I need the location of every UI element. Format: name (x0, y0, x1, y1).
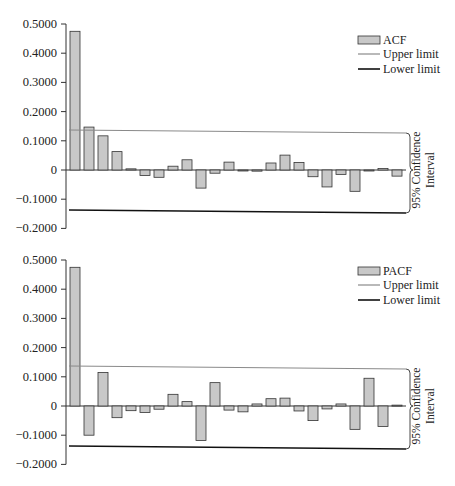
bar-lag-16 (280, 155, 290, 170)
bar-lag-2 (84, 127, 94, 170)
bar-lag-17 (294, 406, 304, 411)
legend-bars-label: PACF (383, 264, 412, 278)
y-tick-label: −0.1000 (16, 428, 57, 442)
bar-lag-12 (224, 162, 234, 170)
y-tick-label: 0.5000 (23, 17, 57, 31)
y-tick-label: 0 (51, 163, 57, 177)
legend-bar-swatch (358, 36, 380, 44)
bar-lag-14 (252, 170, 262, 171)
bar-lag-20 (336, 404, 346, 406)
bar-lag-11 (210, 170, 220, 173)
bar-lag-17 (294, 162, 304, 170)
bar-lag-4 (112, 152, 122, 170)
ci-label-line1: 95% Confidence (410, 368, 422, 445)
bar-lag-21 (350, 406, 360, 429)
lower-limit-line (69, 446, 406, 449)
bar-lag-16 (280, 398, 290, 406)
legend-lower-label: Lower limit (383, 62, 441, 76)
bar-lag-22 (364, 170, 374, 171)
y-tick-label: 0.3000 (23, 75, 57, 89)
bar-lag-24 (392, 170, 402, 176)
bar-lag-7 (154, 170, 164, 177)
bar-lag-13 (238, 170, 248, 171)
legend-lower-label: Lower limit (383, 293, 441, 307)
y-tick-label: 0.5000 (23, 253, 57, 267)
ci-label-line1: 95% Confidence (410, 132, 422, 209)
ci-label: 95% ConfidenceInterval (410, 132, 436, 209)
ci-label-line2: Interval (424, 152, 436, 188)
bar-lag-1 (70, 267, 80, 406)
bar-lag-5 (126, 406, 136, 411)
y-tick-label: 0.4000 (23, 282, 57, 296)
legend-upper-label: Upper limit (383, 278, 439, 292)
ci-label-line2: Interval (424, 388, 436, 424)
y-tick-label: 0.2000 (23, 105, 57, 119)
legend: ACFUpper limitLower limit (358, 33, 441, 76)
lower-limit-line (69, 210, 406, 213)
y-tick-label: 0.2000 (23, 341, 57, 355)
pacf-plot: 0.50000.40000.30000.20000.10000−0.1000−0… (0, 236, 455, 486)
bar-lag-8 (168, 166, 178, 170)
y-tick-label: 0.4000 (23, 46, 57, 60)
bar-lag-9 (182, 402, 192, 406)
bar-lag-22 (364, 378, 374, 406)
bar-lag-4 (112, 406, 122, 418)
bar-lag-10 (196, 170, 206, 188)
y-tick-label: 0.1000 (23, 134, 57, 148)
bar-lag-6 (140, 170, 150, 176)
bar-lag-9 (182, 160, 192, 170)
y-tick-label: 0.3000 (23, 311, 57, 325)
bar-lag-14 (252, 404, 262, 406)
acf-plot: 0.50000.40000.30000.20000.10000−0.1000−0… (0, 0, 455, 243)
bar-lag-6 (140, 406, 150, 412)
bar-lag-19 (322, 406, 332, 409)
bar-lag-18 (308, 170, 318, 177)
bar-lag-2 (84, 406, 94, 435)
ci-label: 95% ConfidenceInterval (410, 368, 436, 445)
acf-chart: 0.50000.40000.30000.20000.10000−0.1000−0… (0, 0, 455, 243)
y-tick-label: 0.1000 (23, 370, 57, 384)
legend-upper-label: Upper limit (383, 47, 439, 61)
bar-lag-5 (126, 169, 136, 170)
y-tick-label: 0 (51, 399, 57, 413)
pacf-chart: 0.50000.40000.30000.20000.10000−0.1000−0… (0, 236, 455, 486)
y-tick-label: −0.1000 (16, 192, 57, 206)
bar-lag-13 (238, 406, 248, 412)
bar-lag-19 (322, 170, 332, 187)
bar-lag-24 (392, 405, 402, 406)
bar-lag-10 (196, 406, 206, 440)
bar-lag-23 (378, 169, 388, 170)
bar-lag-1 (70, 31, 80, 170)
bar-lag-11 (210, 383, 220, 406)
legend: PACFUpper limitLower limit (358, 264, 441, 307)
upper-limit-line (69, 130, 406, 133)
bar-lag-3 (98, 372, 108, 406)
legend-bar-swatch (358, 267, 380, 275)
bar-lag-15 (266, 399, 276, 406)
upper-limit-line (69, 366, 406, 369)
legend-bars-label: ACF (383, 33, 407, 47)
bar-lag-18 (308, 406, 318, 421)
bar-lag-20 (336, 170, 346, 174)
y-tick-label: −0.2000 (16, 221, 57, 235)
bar-lag-23 (378, 406, 388, 426)
bar-lag-15 (266, 163, 276, 170)
y-tick-label: −0.2000 (16, 457, 57, 471)
bar-lag-21 (350, 170, 360, 191)
bar-lag-7 (154, 406, 164, 409)
bar-lag-8 (168, 394, 178, 406)
bar-lag-12 (224, 406, 234, 410)
bar-lag-3 (98, 136, 108, 170)
